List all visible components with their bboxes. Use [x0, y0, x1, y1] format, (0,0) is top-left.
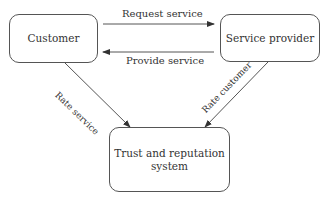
- trust-reputation-node: Trust and reputation system: [109, 127, 230, 192]
- trust-label-line2: system: [151, 160, 188, 173]
- trust-label-line1: Trust and reputation: [114, 147, 225, 160]
- service-provider-label: Service provider: [226, 32, 314, 45]
- request-service-label: Request service: [122, 8, 203, 19]
- service-provider-node: Service provider: [220, 14, 320, 62]
- provide-service-label: Provide service: [126, 55, 204, 66]
- customer-label: Customer: [28, 32, 80, 45]
- customer-node: Customer: [9, 14, 98, 63]
